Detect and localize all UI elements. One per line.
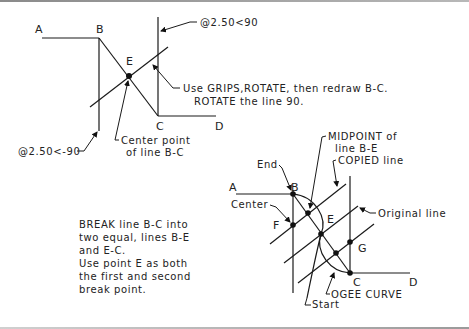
label-d: D	[409, 276, 418, 289]
label-f: F	[273, 219, 280, 232]
center-point-label-2: of line B-C	[126, 147, 184, 158]
instruction-line: the first and second	[79, 271, 191, 282]
point-e	[126, 73, 132, 79]
label-a: A	[35, 23, 43, 36]
end-label: End	[257, 159, 278, 170]
instruction-line: break point.	[79, 284, 146, 295]
label-b: B	[96, 23, 104, 36]
original-line-label: Original line	[378, 208, 446, 219]
instruction-line: BREAK line B-C into	[79, 219, 188, 230]
label-a: A	[229, 181, 237, 194]
label-e: E	[126, 55, 134, 68]
point-g	[347, 239, 353, 245]
midpoint-label-2: line B-E	[335, 143, 378, 154]
start-label: Start	[312, 299, 339, 310]
label-e: E	[327, 213, 335, 226]
ogee-curve-label: OGEE CURVE	[331, 289, 402, 300]
grips-instruction-1: Use GRIPS,ROTATE, then redraw B-C.	[183, 83, 388, 94]
grips-instruction-2: ROTATE the line 90.	[194, 96, 304, 107]
label-g: G	[358, 242, 367, 255]
midpoint-label-1: MIDPOINT of	[328, 131, 397, 142]
label-b: B	[291, 181, 299, 194]
center-point-label-1: Center point	[121, 135, 191, 146]
point-f	[290, 222, 296, 228]
instruction-line: two equal, lines B-E	[79, 232, 190, 243]
polar-down-annotation: @2.50<-90	[18, 146, 80, 157]
instruction-line: Use point E as both	[79, 258, 188, 269]
center-label: Center	[231, 199, 269, 210]
cad-drawing: A B E C D @2.50<90 Use GRIPS,ROTATE, the…	[0, 0, 469, 329]
label-c: C	[156, 120, 164, 133]
point-midpoint	[305, 210, 311, 216]
point-e	[318, 231, 324, 237]
instruction-line: and E-C.	[79, 245, 126, 256]
label-c: C	[353, 276, 361, 289]
point-c	[347, 270, 353, 276]
copied-line-label: COPIED line	[338, 155, 404, 166]
label-d: D	[215, 120, 224, 133]
polar-up-annotation: @2.50<90	[200, 17, 258, 28]
instructions-text: BREAK line B-C into two equal, lines B-E…	[79, 219, 191, 295]
bottom-figure: A B F E G C D End Center MIDPOINT of lin…	[229, 131, 446, 310]
point-midpoint-e-c	[333, 250, 339, 256]
